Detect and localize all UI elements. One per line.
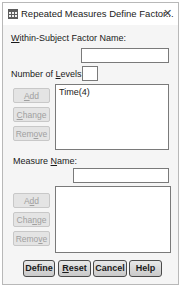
cancel-button[interactable]: Cancel [93, 260, 127, 277]
measure-change-button[interactable]: Change [13, 212, 50, 227]
help-button[interactable]: Help [129, 260, 162, 277]
window-title: Repeated Measures Define Factor... [21, 8, 174, 19]
factor-change-button[interactable]: Change [13, 107, 50, 122]
spreadsheet-grid-icon [8, 9, 18, 19]
measure-add-button[interactable]: Add [13, 193, 50, 208]
measure-listbox[interactable] [55, 186, 171, 253]
title-bar: Repeated Measures Define Factor... ✕ [3, 3, 178, 25]
measure-name-input[interactable] [73, 168, 169, 183]
list-item[interactable]: Time(4) [59, 87, 165, 97]
measure-remove-button[interactable]: Remove [13, 231, 50, 246]
close-icon[interactable]: ✕ [163, 7, 172, 20]
factor-name-input[interactable] [81, 48, 169, 63]
define-factors-dialog: Repeated Measures Define Factor... ✕ Wit… [2, 2, 179, 285]
define-button[interactable]: Define [23, 260, 55, 277]
number-of-levels-input[interactable] [82, 66, 98, 81]
factor-add-button[interactable]: Add [13, 88, 50, 103]
measure-name-label: Measure Name: [13, 156, 77, 166]
reset-button[interactable]: Reset [58, 260, 91, 277]
factor-listbox[interactable]: Time(4) [55, 84, 169, 150]
factor-name-label: Within-Subject Factor Name: [11, 33, 126, 43]
factor-remove-button[interactable]: Remove [13, 126, 50, 141]
number-of-levels-label: Number of Levels: [11, 69, 84, 79]
